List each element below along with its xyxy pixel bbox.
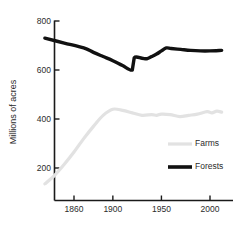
x-tick-label: 1900 [103, 204, 122, 214]
x-tick-label: 1950 [152, 204, 171, 214]
line-chart: 200400600800 1860190019502000 Millions o… [0, 0, 248, 229]
legend-label-farms: Farms [195, 138, 219, 148]
x-tick-label: 2000 [201, 204, 220, 214]
series-line-forests [45, 38, 222, 70]
legend-label-forests: Forests [195, 161, 223, 171]
x-tick-label: 1860 [65, 204, 84, 214]
y-tick-label: 400 [37, 114, 51, 124]
y-tick-label: 800 [37, 16, 51, 26]
y-tick-label: 600 [37, 65, 51, 75]
x-axis-ticks: 1860190019502000 [65, 196, 220, 215]
chart-legend: FarmsForests [168, 138, 223, 171]
y-tick-label: 200 [37, 163, 51, 173]
y-axis-title: Millions of acres [8, 79, 18, 144]
chart-container: 200400600800 1860190019502000 Millions o… [0, 0, 248, 229]
